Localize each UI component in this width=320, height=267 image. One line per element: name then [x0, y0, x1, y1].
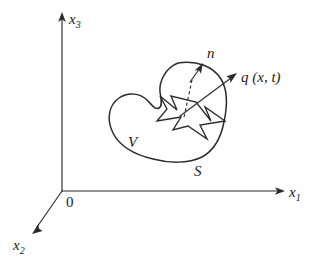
- origin-label: 0: [66, 194, 74, 210]
- dart-outline: [157, 96, 225, 139]
- body-region: [109, 62, 226, 162]
- label-group: x3 x1 x2 0 V S n q (x, t): [12, 11, 301, 256]
- axis-label-x1-subscript: 1: [296, 192, 301, 203]
- inner-dart-shape: [157, 96, 225, 139]
- figure-root: x3 x1 x2 0 V S n q (x, t): [0, 0, 320, 267]
- axis-label-x1: x1: [288, 184, 301, 203]
- volume-label: V: [128, 134, 139, 150]
- axis-x2: [32, 191, 62, 234]
- surface-label: S: [194, 163, 202, 179]
- flux-arrowhead: [226, 73, 237, 83]
- axis-label-x2-subscript: 2: [20, 245, 25, 256]
- axis-label-x3: x3: [68, 11, 81, 30]
- normal-vector-label: n: [207, 45, 215, 61]
- diagram-canvas: x3 x1 x2 0 V S n q (x, t): [0, 0, 320, 267]
- flux-arrow-shaft: [180, 78, 231, 116]
- axis-x2-arrowhead: [32, 224, 43, 234]
- normal-arrowhead: [195, 63, 203, 74]
- axis-x1: [62, 187, 285, 195]
- flux-vector-label: q (x, t): [241, 69, 281, 86]
- axis-x3: [58, 12, 66, 191]
- axis-x2-line: [37, 191, 62, 227]
- axis-label-x3-subscript: 3: [75, 19, 81, 30]
- normal-vector: [184, 63, 203, 117]
- surface-outline: [109, 62, 226, 162]
- axis-label-x2: x2: [12, 237, 25, 256]
